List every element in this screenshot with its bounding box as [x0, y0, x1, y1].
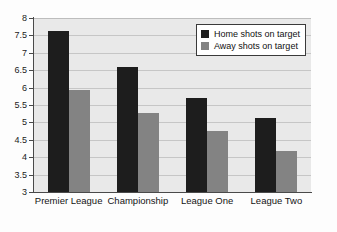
y-tick-label: 6.5	[14, 66, 27, 75]
y-tick-label: 4.5	[14, 135, 27, 144]
y-tick-label: 7.5	[14, 31, 27, 40]
bar-home	[186, 98, 207, 192]
bar-away	[69, 90, 90, 192]
x-tick-label: Championship	[108, 196, 169, 206]
bar-home	[255, 118, 276, 192]
x-tick-label: League Two	[251, 196, 303, 206]
y-tick-mark	[29, 140, 34, 141]
bar-chart: 33.544.555.566.577.58 Premier LeagueCham…	[0, 0, 337, 232]
legend-label-home: Home shots on target	[214, 30, 300, 39]
y-tick-mark	[29, 88, 34, 89]
bar-away	[207, 131, 228, 192]
bar-away	[138, 113, 159, 192]
y-tick-mark	[29, 192, 34, 193]
legend-label-away: Away shots on target	[214, 42, 298, 51]
y-tick-label: 3	[22, 188, 27, 197]
legend-swatch-home-icon	[201, 30, 209, 38]
y-tick-mark	[29, 122, 34, 123]
y-tick-mark	[29, 70, 34, 71]
y-tick-mark	[29, 175, 34, 176]
y-tick-label: 4	[22, 153, 27, 162]
y-tick-label: 7	[22, 48, 27, 57]
x-axis-line	[33, 192, 312, 193]
chart-legend: Home shots on target Away shots on targe…	[196, 24, 306, 56]
y-tick-mark	[29, 157, 34, 158]
y-tick-label: 3.5	[14, 170, 27, 179]
y-tick-label: 6	[22, 83, 27, 92]
legend-item-away: Away shots on target	[201, 40, 300, 52]
legend-item-home: Home shots on target	[201, 28, 300, 40]
y-tick-mark	[29, 18, 34, 19]
y-tick-label: 5.5	[14, 101, 27, 110]
gridline	[34, 18, 311, 19]
bar-home	[117, 67, 138, 192]
y-tick-label: 5	[22, 118, 27, 127]
x-tick-label: Premier League	[35, 196, 103, 206]
bar-away	[276, 151, 297, 192]
y-tick-label: 8	[22, 14, 27, 23]
legend-swatch-away-icon	[201, 42, 209, 50]
y-tick-mark	[29, 105, 34, 106]
y-tick-mark	[29, 53, 34, 54]
gridline	[34, 70, 311, 71]
x-tick-label: League One	[181, 196, 233, 206]
gridline	[34, 88, 311, 89]
y-tick-mark	[29, 35, 34, 36]
bar-home	[48, 31, 69, 192]
